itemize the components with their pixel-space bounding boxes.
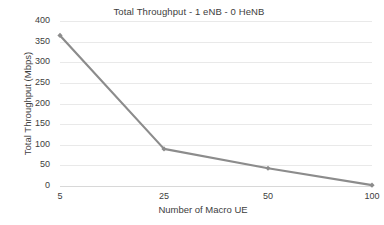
x-axis-label: Number of Macro UE xyxy=(58,204,348,215)
y-tick-label: 300 xyxy=(16,56,50,66)
series-line xyxy=(60,35,372,185)
gridline xyxy=(60,186,372,187)
y-tick-label: 200 xyxy=(16,98,50,108)
x-tick-label: 5 xyxy=(40,191,80,201)
chart-title: Total Throughput - 1 eNB - 0 HeNB xyxy=(0,6,378,17)
x-tick-label: 100 xyxy=(352,191,384,201)
plot-area: 050100150200250300350400 52550100 xyxy=(60,21,372,186)
y-tick-label: 0 xyxy=(16,180,50,190)
x-tick-label: 25 xyxy=(144,191,184,201)
y-tick-label: 350 xyxy=(16,36,50,46)
y-tick-label: 250 xyxy=(16,77,50,87)
y-tick-label: 400 xyxy=(16,15,50,25)
data-point-marker xyxy=(265,166,270,171)
y-tick-label: 150 xyxy=(16,118,50,128)
y-tick-label: 50 xyxy=(16,159,50,169)
data-series-group xyxy=(60,21,372,186)
x-tick-label: 50 xyxy=(248,191,288,201)
y-tick-label: 100 xyxy=(16,139,50,149)
